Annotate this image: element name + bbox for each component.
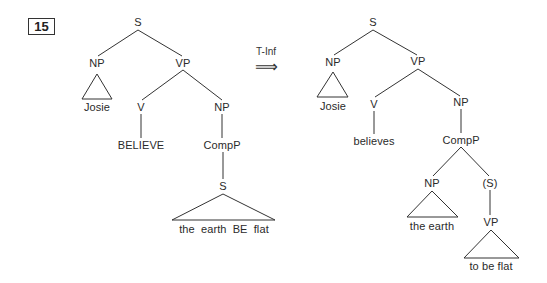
left-subject-np: NP — [89, 57, 104, 69]
right-embedded-vp: VP — [484, 216, 499, 228]
right-object-np: NP — [453, 96, 468, 108]
right-verb: believes — [353, 135, 394, 147]
right-subject: Josie — [320, 100, 346, 112]
transformation-label: T-Inf — [256, 46, 276, 57]
left-compp: CompP — [203, 139, 240, 151]
right-embedded-predicate: to be flat — [469, 260, 512, 272]
right-verb-cat: V — [370, 98, 377, 110]
left-object-np: NP — [214, 101, 229, 113]
right-embedded-s: (S) — [483, 177, 498, 189]
right-embedded-subject: the earth — [410, 220, 454, 232]
left-embedded-s: S — [219, 180, 226, 192]
right-subject-np: NP — [325, 56, 340, 68]
right-root-s: S — [369, 16, 376, 28]
example-number: 15 — [28, 18, 55, 35]
right-compp: CompP — [442, 134, 479, 146]
left-verb-cat: V — [137, 101, 144, 113]
right-embedded-np: NP — [424, 177, 439, 189]
left-verb: BELIEVE — [118, 139, 165, 151]
right-vp: VP — [411, 55, 426, 67]
left-vp: VP — [176, 57, 191, 69]
left-root-s: S — [134, 16, 141, 28]
left-subject: Josie — [84, 101, 110, 113]
double-arrow-icon: ⟹ — [255, 60, 278, 74]
left-embedded-string: the earth BE flat — [179, 223, 269, 235]
